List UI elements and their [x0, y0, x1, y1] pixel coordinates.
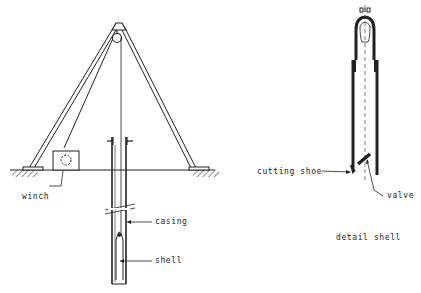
valve-leader	[367, 160, 383, 196]
pulley-icon	[113, 30, 122, 43]
boring-rig-diagram: winch casing shell cutting shoe valve de…	[0, 0, 421, 293]
winch-label: winch	[22, 192, 49, 202]
detail-shell	[351, 5, 378, 182]
cutting-shoe-leader	[322, 171, 350, 172]
shell	[116, 232, 123, 280]
tripod-apex-cap	[112, 23, 126, 30]
ground-hatch-left	[12, 170, 38, 177]
casing-label: casing	[155, 217, 188, 227]
ground-hatch-right	[193, 170, 219, 177]
winch	[53, 151, 79, 170]
valve-label: valve	[387, 191, 414, 201]
winch-leader	[49, 171, 63, 186]
detail-shell-caption: detail shell	[336, 233, 401, 243]
shell-label: shell	[155, 256, 182, 266]
cutting-shoe-label: cutting shoe	[257, 167, 322, 177]
ground-line	[10, 167, 219, 177]
